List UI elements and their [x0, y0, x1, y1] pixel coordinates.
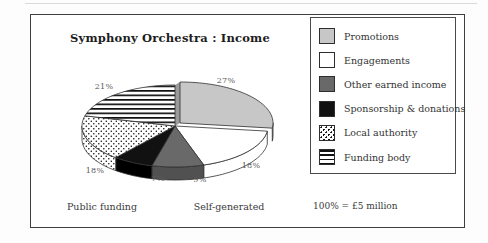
scan-artifact-line	[25, 3, 477, 4]
legend-label: Promotions	[344, 31, 399, 42]
funding-body-swatch-icon	[319, 149, 335, 165]
slice-label-other-earned: 9%	[193, 175, 206, 184]
legend-label: Funding body	[344, 152, 410, 163]
legend-label: Other earned income	[344, 79, 446, 90]
legend-item-sponsorship-donations: Sponsorship & donations	[311, 97, 455, 121]
group-label-public-funding: Public funding	[67, 201, 137, 212]
promotions-swatch-icon	[319, 28, 335, 44]
legend-item-funding-body: Funding body	[311, 145, 455, 169]
legend-item-promotions: Promotions	[311, 24, 455, 48]
legend-item-engagements: Engagements	[311, 48, 455, 72]
engagements-swatch-icon	[319, 52, 335, 68]
slice-label-sponsorship: 7%	[151, 174, 164, 183]
slice-label-local-authority: 18%	[86, 166, 105, 175]
legend-item-other-earned-income: Other earned income	[311, 72, 455, 96]
slice-label-funding-body: 21%	[95, 82, 114, 91]
legend-label: Engagements	[344, 55, 410, 66]
legend-item-local-authority: Local authority	[311, 121, 455, 145]
total-note: 100% = £5 million	[313, 201, 398, 211]
legend-label: Local authority	[344, 127, 417, 138]
scanned-chart-page: Symphony Orchestra : Income 27% 18% 9% 7…	[0, 0, 488, 243]
local-authority-swatch-icon	[319, 125, 335, 141]
legend-box: Promotions Engagements Other earned inco…	[310, 17, 456, 174]
slice-label-engagements: 18%	[242, 161, 261, 170]
slice-label-promotions: 27%	[217, 76, 236, 85]
sponsorship-swatch-icon	[319, 101, 335, 117]
chart-title: Symphony Orchestra : Income	[60, 31, 280, 45]
group-label-self-generated: Self-generated	[194, 201, 265, 212]
legend-label: Sponsorship & donations	[344, 103, 465, 114]
other-earned-income-swatch-icon	[319, 76, 335, 92]
